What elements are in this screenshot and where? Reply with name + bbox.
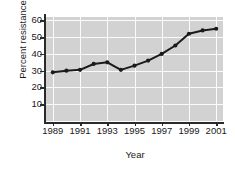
data-point-marker	[51, 70, 55, 74]
x-axis-label: Year	[46, 149, 224, 160]
y-tick-mark	[40, 87, 44, 89]
y-tick-label: 30	[20, 66, 42, 76]
x-tick-mark	[162, 122, 164, 126]
y-tick-label: 40	[20, 49, 42, 59]
data-point-marker	[187, 32, 191, 36]
data-point-marker	[132, 64, 136, 68]
x-tick-mark	[135, 122, 137, 126]
data-point-marker	[92, 62, 96, 66]
data-series-line	[46, 17, 223, 121]
data-point-marker	[200, 28, 204, 32]
data-point-marker	[160, 52, 164, 56]
x-tick-label: 2001	[196, 126, 235, 136]
y-tick-label: 10	[20, 99, 42, 109]
data-point-marker	[173, 43, 177, 47]
data-point-marker	[105, 60, 109, 64]
data-point-marker	[78, 68, 82, 72]
x-tick-mark	[216, 122, 218, 126]
data-point-marker	[146, 59, 150, 63]
x-tick-mark	[189, 122, 191, 126]
y-tick-mark	[40, 54, 44, 56]
y-tick-mark	[40, 71, 44, 73]
chart-figure: Percent resistance 605040302010 19891991…	[0, 0, 235, 174]
plot-area	[46, 17, 223, 121]
x-tick-mark	[80, 122, 82, 126]
y-tick-mark	[40, 37, 44, 39]
data-point-marker	[64, 69, 68, 73]
x-tick-mark	[53, 122, 55, 126]
x-tick-mark	[107, 122, 109, 126]
y-tick-label: 20	[20, 82, 42, 92]
y-tick-label: 60	[20, 15, 42, 25]
y-tick-mark	[40, 104, 44, 106]
y-axis-tick-labels: 605040302010	[18, 0, 42, 174]
data-point-marker	[214, 27, 218, 31]
data-point-marker	[119, 68, 123, 72]
y-tick-label: 50	[20, 32, 42, 42]
y-tick-mark	[40, 20, 44, 22]
